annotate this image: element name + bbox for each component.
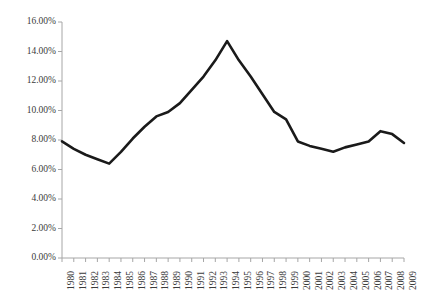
x-tick-label: 1999 (290, 271, 300, 290)
x-tick-label: 2000 (302, 271, 312, 290)
x-tick-label: 1984 (113, 271, 123, 290)
x-tick-label: 2003 (337, 271, 347, 290)
axes-group (62, 22, 404, 258)
x-tick-label: 1983 (101, 271, 111, 290)
y-tick-label: 16.00% (4, 16, 56, 26)
x-tick-label: 1994 (231, 271, 241, 290)
y-tick-label: 0.00% (4, 252, 56, 262)
x-tick-label: 1992 (208, 271, 218, 290)
y-tick-label: 6.00% (4, 164, 56, 174)
x-tick-label: 2009 (408, 271, 418, 290)
x-tick-label: 1997 (266, 271, 276, 290)
data-series-line (62, 41, 404, 163)
x-tick-label: 1990 (184, 271, 194, 290)
x-tick-label: 1980 (66, 271, 76, 290)
x-tick-label: 2001 (314, 271, 324, 290)
x-tick-label: 1995 (243, 271, 253, 290)
x-tick-label: 1988 (160, 271, 170, 290)
x-tick-label: 2007 (384, 271, 394, 290)
x-tick-label: 1981 (78, 271, 88, 290)
y-tick-label: 14.00% (4, 46, 56, 56)
chart-plot-area (0, 0, 430, 303)
y-tick-label: 2.00% (4, 223, 56, 233)
x-tick-label: 2008 (396, 271, 406, 290)
x-tick-label: 1985 (125, 271, 135, 290)
x-tick-marks (62, 258, 404, 262)
x-tick-label: 1982 (90, 271, 100, 290)
x-tick-label: 1993 (219, 271, 229, 290)
y-tick-label: 4.00% (4, 193, 56, 203)
x-tick-label: 1987 (149, 271, 159, 290)
y-tick-marks (58, 22, 62, 258)
x-tick-label: 1998 (278, 271, 288, 290)
x-tick-label: 2005 (361, 271, 371, 290)
chart-container: 0.00%2.00%4.00%6.00%8.00%10.00%12.00%14.… (0, 0, 430, 303)
x-tick-label: 1996 (255, 271, 265, 290)
x-tick-label: 2002 (325, 271, 335, 290)
y-tick-label: 12.00% (4, 75, 56, 85)
x-tick-label: 1989 (172, 271, 182, 290)
y-tick-label: 8.00% (4, 134, 56, 144)
x-tick-label: 2006 (373, 271, 383, 290)
y-tick-label: 10.00% (4, 105, 56, 115)
x-tick-label: 1991 (196, 271, 206, 290)
x-tick-label: 2004 (349, 271, 359, 290)
x-tick-label: 1986 (137, 271, 147, 290)
